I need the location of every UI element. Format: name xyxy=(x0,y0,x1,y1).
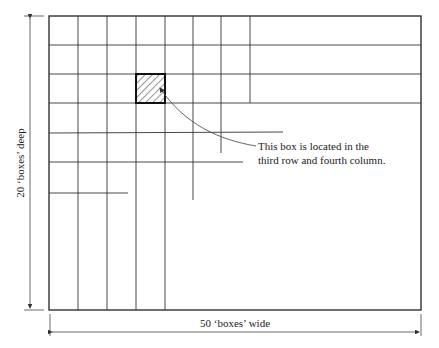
width-dimension-label: 50 ‘boxes’ wide xyxy=(200,317,270,329)
annotation-line-1: This box is located in the xyxy=(258,140,369,152)
grid-row-lines xyxy=(49,45,421,193)
annotation-leader-line xyxy=(160,88,256,146)
height-dimension xyxy=(24,16,44,310)
height-dimension-label: 20 ‘boxes’ deep xyxy=(14,128,26,198)
row-line xyxy=(49,132,283,133)
annotation-line-2: third row and fourth column. xyxy=(258,154,386,166)
grid-column-lines xyxy=(78,16,250,310)
box-grid-diagram: This box is located in the third row and… xyxy=(0,0,439,348)
